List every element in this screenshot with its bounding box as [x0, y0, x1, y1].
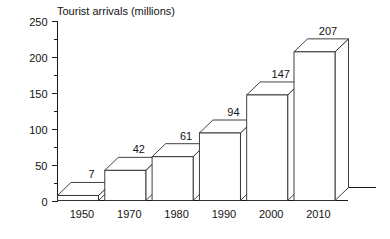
bar-front-face: [294, 52, 335, 201]
y-tick-label: 150: [29, 88, 47, 100]
bar-1990: [199, 120, 254, 200]
tourist-arrivals-bar-chart: Tourist arrivals (millions) 050100150200…: [0, 0, 390, 239]
x-tick-label: 2010: [306, 208, 330, 220]
chart-canvas: Tourist arrivals (millions) 050100150200…: [0, 0, 390, 239]
x-tick-label: 1970: [117, 208, 141, 220]
bar-2010: [294, 39, 349, 201]
x-tick-label: 1980: [164, 208, 188, 220]
y-tick-label: 0: [41, 196, 47, 208]
y-tick-label: 100: [29, 124, 47, 136]
bar-front-face: [199, 133, 240, 200]
bar-value-label: 42: [133, 143, 145, 155]
bar-1980: [152, 144, 207, 201]
x-axis-tick-labels: 195019701980199020002010: [70, 208, 331, 220]
x-tick-label: 1990: [212, 208, 236, 220]
bar-front-face: [58, 195, 99, 200]
y-tick-label: 50: [35, 160, 47, 172]
x-tick-label: 2000: [259, 208, 283, 220]
bars-layer: [58, 39, 349, 201]
chart-title: Tourist arrivals (millions): [57, 5, 175, 17]
bar-1950: [58, 182, 113, 200]
bar-value-label: 207: [319, 25, 337, 37]
bar-value-label: 94: [227, 106, 239, 118]
bar-2000: [247, 82, 302, 201]
bar-value-label: 147: [272, 68, 290, 80]
bar-value-label: 61: [180, 130, 192, 142]
y-tick-label: 200: [29, 52, 47, 64]
bar-side-face: [335, 39, 349, 201]
bar-value-label: 7: [88, 168, 94, 180]
bar-front-face: [247, 95, 288, 201]
bar-1970: [105, 157, 160, 200]
y-tick-label: 250: [29, 16, 47, 28]
x-tick-label: 1950: [70, 208, 94, 220]
bar-front-face: [105, 170, 146, 200]
y-axis: 050100150200250: [29, 16, 57, 208]
y-axis-tick-labels: 050100150200250: [29, 16, 47, 208]
bar-front-face: [152, 157, 193, 201]
